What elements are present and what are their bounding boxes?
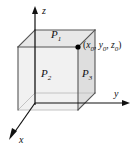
face-label-p2: P2 — [41, 68, 51, 82]
corner-point-label: (x0, y0, z0) — [83, 41, 121, 53]
face-label-p1: P1 — [51, 29, 61, 43]
face-label-p1-subscript: 1 — [58, 35, 62, 43]
face-label-p1-base: P — [51, 28, 58, 40]
z-axis-arrowhead — [32, 6, 38, 14]
y-axis-label: y — [114, 89, 118, 99]
math-figure-box-with-labeled-faces: z y x P1 P2 P3 (x0, y0, z0) — [0, 0, 136, 149]
face-label-p2-base: P — [41, 67, 48, 79]
z-axis-label: z — [42, 6, 46, 16]
x-axis-label: x — [19, 135, 23, 145]
corner-point-marker — [75, 44, 80, 49]
face-label-p3: P3 — [82, 68, 92, 82]
face-label-p2-subscript: 2 — [48, 74, 52, 82]
figure-canvas — [0, 0, 136, 149]
y-axis-arrowhead — [122, 100, 130, 106]
face-label-p3-base: P — [82, 67, 89, 79]
corner-point-close-paren: ) — [118, 40, 121, 50]
face-label-p3-subscript: 3 — [89, 74, 93, 82]
